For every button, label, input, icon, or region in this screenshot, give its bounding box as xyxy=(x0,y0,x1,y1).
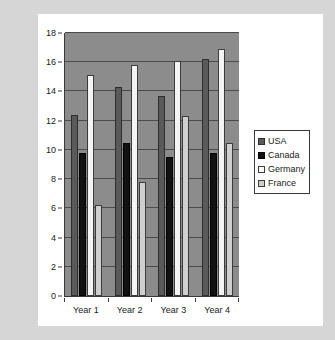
x-axis-labels: Year 1Year 2Year 3Year 4 xyxy=(64,305,239,315)
plot-area xyxy=(64,33,239,297)
y-axis-tick-label: 10 xyxy=(46,145,56,154)
chart-legend: USACanadaGermanyFrance xyxy=(254,130,310,194)
x-axis-tick-mark xyxy=(64,298,65,302)
y-axis-tick-label: 14 xyxy=(46,87,56,96)
x-axis-tick-label: Year 3 xyxy=(161,305,187,315)
x-axis-tick-mark xyxy=(151,298,152,302)
y-axis-tick-mark xyxy=(58,208,62,209)
bar-usa-year-3[interactable] xyxy=(158,96,165,296)
x-axis-tick-mark xyxy=(238,298,239,302)
y-axis-tick-mark xyxy=(58,33,62,34)
bar-canada-year-2[interactable] xyxy=(123,143,130,296)
bar-usa-year-2[interactable] xyxy=(115,87,122,296)
legend-label: France xyxy=(268,179,296,188)
legend-swatch-usa xyxy=(258,138,265,145)
y-axis-tick-mark xyxy=(58,179,62,180)
y-axis-tick-mark xyxy=(58,149,62,150)
y-axis-tick-label: 8 xyxy=(51,175,56,184)
legend-label: Canada xyxy=(268,151,300,160)
legend-swatch-france xyxy=(258,180,265,187)
x-axis-tick-mark xyxy=(195,298,196,302)
y-axis-tick-label: 2 xyxy=(51,262,56,271)
bar-groups xyxy=(65,33,239,296)
legend-item-germany[interactable]: Germany xyxy=(258,162,305,176)
y-axis-tick-label: 12 xyxy=(46,116,56,125)
bar-canada-year-3[interactable] xyxy=(166,157,173,296)
bar-usa-year-4[interactable] xyxy=(202,59,209,296)
y-axis-tick-mark xyxy=(58,266,62,267)
bar-canada-year-1[interactable] xyxy=(79,153,86,296)
bar-germany-year-3[interactable] xyxy=(174,61,181,296)
x-axis-tick-mark xyxy=(108,298,109,302)
x-axis-tick-label: Year 1 xyxy=(73,305,99,315)
bar-usa-year-1[interactable] xyxy=(71,115,78,296)
y-axis-tick-label: 18 xyxy=(46,29,56,38)
y-axis-tick-mark xyxy=(58,237,62,238)
bar-canada-year-4[interactable] xyxy=(210,153,217,296)
x-axis: Year 1Year 2Year 3Year 4 xyxy=(64,298,239,322)
y-axis-tick-mark xyxy=(58,91,62,92)
chart-card: 024681012141618 Year 1Year 2Year 3Year 4… xyxy=(38,14,323,326)
y-axis: 024681012141618 xyxy=(38,28,62,301)
bar-group xyxy=(202,33,233,296)
y-axis-tick-label: 4 xyxy=(51,233,56,242)
legend-label: USA xyxy=(268,137,287,146)
bar-france-year-3[interactable] xyxy=(182,116,189,296)
bar-germany-year-4[interactable] xyxy=(218,49,225,296)
legend-item-canada[interactable]: Canada xyxy=(258,148,305,162)
y-axis-tick-label: 0 xyxy=(51,292,56,301)
y-axis-tick-label: 6 xyxy=(51,204,56,213)
bar-france-year-4[interactable] xyxy=(226,143,233,296)
bar-france-year-2[interactable] xyxy=(139,182,146,296)
legend-swatch-germany xyxy=(258,166,265,173)
legend-item-france[interactable]: France xyxy=(258,176,305,190)
bar-germany-year-2[interactable] xyxy=(131,65,138,296)
y-axis-tick-mark xyxy=(58,296,62,297)
chart-page: { "chart_data": { "type": "bar", "title"… xyxy=(0,0,335,340)
y-axis-tick-mark xyxy=(58,62,62,63)
legend-item-usa[interactable]: USA xyxy=(258,134,305,148)
bar-germany-year-1[interactable] xyxy=(87,75,94,296)
x-axis-tick-label: Year 2 xyxy=(117,305,143,315)
bar-france-year-1[interactable] xyxy=(95,205,102,296)
legend-label: Germany xyxy=(268,165,305,174)
y-axis-tick-mark xyxy=(58,120,62,121)
bar-group xyxy=(158,33,189,296)
x-axis-tick-label: Year 4 xyxy=(204,305,230,315)
bar-group xyxy=(71,33,102,296)
bar-group xyxy=(115,33,146,296)
y-axis-tick-label: 16 xyxy=(46,58,56,67)
legend-swatch-canada xyxy=(258,152,265,159)
